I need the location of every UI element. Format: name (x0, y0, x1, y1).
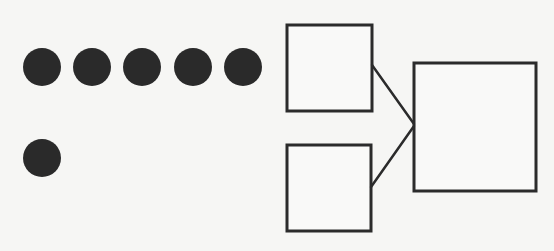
input-box-bottom (287, 145, 371, 231)
dot (23, 139, 61, 177)
connector-line (372, 65, 414, 124)
dot (123, 48, 161, 86)
input-box-top (287, 25, 372, 111)
diagram-canvas (0, 0, 554, 251)
dot (224, 48, 262, 86)
connector-lines (371, 65, 414, 187)
output-box (414, 63, 536, 191)
dot (73, 48, 111, 86)
dot-row-one (23, 139, 61, 177)
connector-line (371, 126, 414, 187)
dot-row-five (23, 48, 262, 86)
dot (23, 48, 61, 86)
dot (174, 48, 212, 86)
